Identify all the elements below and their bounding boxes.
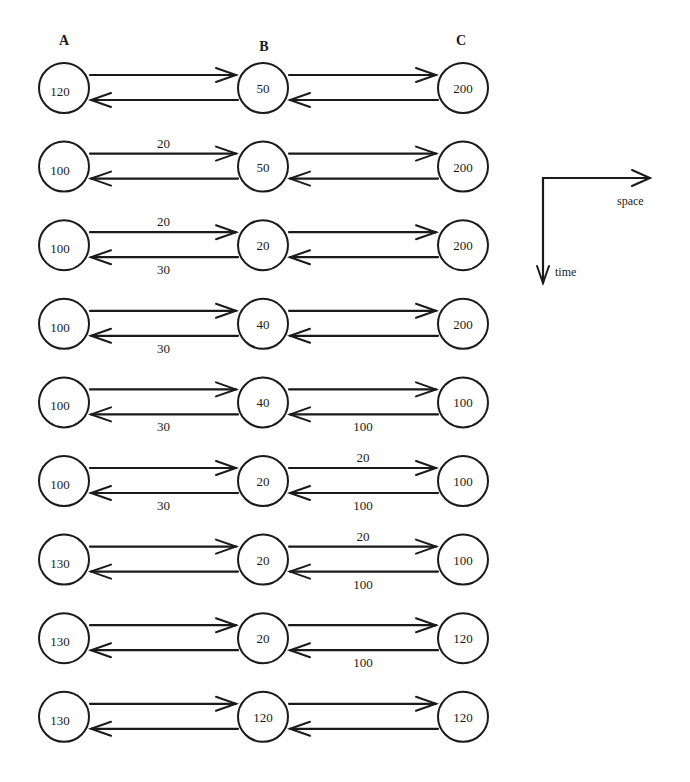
node-c-value: 200 xyxy=(453,238,473,253)
node-a-value: 130 xyxy=(50,713,70,728)
node-c-value: 120 xyxy=(453,631,473,646)
column-labels: A B C xyxy=(59,33,466,54)
edge-label-b-to-a: 30 xyxy=(157,419,170,434)
node-a-value: 100 xyxy=(50,320,70,335)
node-a-value: 120 xyxy=(50,84,70,99)
column-label-c: C xyxy=(456,33,466,48)
node-c-value: 100 xyxy=(453,553,473,568)
node-c-value: 100 xyxy=(453,474,473,489)
time-step-row: 130120120 xyxy=(39,692,488,742)
edge-label-b-to-c: 20 xyxy=(357,450,370,465)
node-b-value: 20 xyxy=(257,474,270,489)
edge-label-c-to-b: 100 xyxy=(353,577,373,592)
node-b-value: 20 xyxy=(257,553,270,568)
node-a-value: 130 xyxy=(50,556,70,571)
time-step-row: 3010010040100 xyxy=(39,377,488,434)
time-step-row: 10013020120 xyxy=(39,613,488,670)
node-c-value: 200 xyxy=(453,317,473,332)
node-c-value: 100 xyxy=(453,395,473,410)
node-a-value: 130 xyxy=(50,634,70,649)
edge-label-b-to-a: 30 xyxy=(157,498,170,513)
time-step-row: 2010013020100 xyxy=(39,529,488,592)
time-step-row: 302010010020100 xyxy=(39,450,488,513)
time-step-row: 12050200 xyxy=(39,63,488,113)
node-b-value: 20 xyxy=(257,238,270,253)
node-b-value: 50 xyxy=(257,81,270,96)
edge-label-c-to-b: 100 xyxy=(353,419,373,434)
node-a-value: 100 xyxy=(50,477,70,492)
edge-label-c-to-b: 100 xyxy=(353,655,373,670)
node-b-value: 40 xyxy=(257,395,270,410)
node-b-value: 20 xyxy=(257,631,270,646)
node-c-value: 200 xyxy=(453,81,473,96)
node-b-value: 40 xyxy=(257,317,270,332)
time-step-row: 203010020200 xyxy=(39,214,488,277)
axes-legend: space time xyxy=(537,170,650,283)
time-axis-label: time xyxy=(555,265,576,279)
space-axis-label: space xyxy=(617,194,644,208)
node-a-value: 100 xyxy=(50,163,70,178)
node-b-value: 50 xyxy=(257,160,270,175)
time-step-row: 2010050200 xyxy=(39,136,488,192)
node-a-value: 100 xyxy=(50,241,70,256)
column-label-b: B xyxy=(259,39,268,54)
node-c-value: 120 xyxy=(453,710,473,725)
edge-label-a-to-b: 20 xyxy=(157,136,170,151)
edge-label-b-to-a: 30 xyxy=(157,262,170,277)
message-passing-diagram: A B C 1205020020100502002030100202003010… xyxy=(0,0,690,782)
time-step-row: 3010040200 xyxy=(39,299,488,356)
node-a-value: 100 xyxy=(50,398,70,413)
edge-label-b-to-c: 20 xyxy=(357,529,370,544)
edge-label-b-to-a: 30 xyxy=(157,341,170,356)
edge-label-a-to-b: 20 xyxy=(157,214,170,229)
edge-label-c-to-b: 100 xyxy=(353,498,373,513)
column-label-a: A xyxy=(59,33,70,48)
node-c-value: 200 xyxy=(453,160,473,175)
diagram-canvas: A B C 1205020020100502002030100202003010… xyxy=(0,0,690,782)
time-steps: 1205020020100502002030100202003010040200… xyxy=(39,63,488,742)
node-b-value: 120 xyxy=(253,710,273,725)
